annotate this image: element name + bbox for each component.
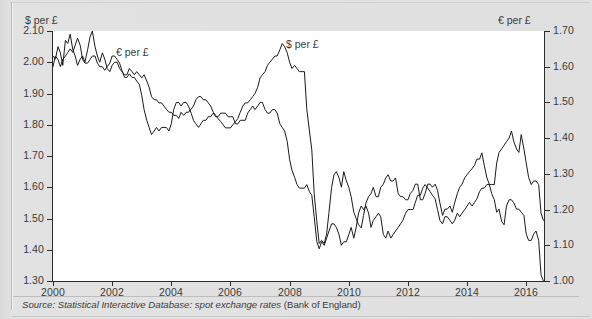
left-tick-label: 1.60 [23,180,44,192]
left-tick-mark [47,31,53,32]
frame-left-highlight [12,2,13,310]
right-tick-mark [544,245,550,246]
left-tick-label: 1.30 [23,274,44,286]
right-axis-title: € per £ [498,14,531,26]
right-tick-label: 1.20 [553,203,574,215]
left-tick-mark [47,187,53,188]
left-tick-label: 1.50 [23,212,44,224]
chart-lines [53,31,544,281]
left-tick-mark [47,62,53,63]
left-tick-mark [47,219,53,220]
left-tick-mark [47,94,53,95]
usd-per-gbp-line [53,31,543,281]
bottom-axis-line [52,281,545,282]
right-tick-mark [544,67,550,68]
left-tick-label: 2.10 [23,24,44,36]
source-note-plain: (Bank of England) [281,299,360,310]
usd-series-annotation: $ per £ [286,38,319,50]
frame-bottom-edge [12,316,590,317]
right-tick-mark [544,102,550,103]
left-tick-mark [47,125,53,126]
right-tick-label: 1.60 [553,60,574,72]
source-note-italic: Source: Statistical Interactive Database… [22,299,281,310]
right-tick-label: 1.30 [553,167,574,179]
right-tick-label: 1.50 [553,95,574,107]
right-tick-mark [544,281,550,282]
left-tick-mark [47,156,53,157]
right-tick-mark [544,210,550,211]
figure-container: $ per £ € per £ 2.102.001.901.801.701.60… [0,0,592,319]
right-tick-mark [544,31,550,32]
right-tick-label: 1.00 [553,274,574,286]
left-tick-label: 2.00 [23,55,44,67]
frame-top-edge [12,2,590,3]
source-note: Source: Statistical Interactive Database… [22,299,361,310]
right-tick-mark [544,174,550,175]
right-tick-mark [544,138,550,139]
left-tick-label: 1.90 [23,87,44,99]
right-tick-label: 1.10 [553,238,574,250]
plot-area [53,31,544,281]
eur-series-annotation: € per £ [116,46,149,58]
left-tick-label: 1.70 [23,149,44,161]
left-tick-label: 1.40 [23,243,44,255]
right-tick-label: 1.40 [553,131,574,143]
source-divider [13,296,579,297]
left-tick-mark [47,250,53,251]
left-tick-label: 1.80 [23,118,44,130]
right-tick-label: 1.70 [553,24,574,36]
